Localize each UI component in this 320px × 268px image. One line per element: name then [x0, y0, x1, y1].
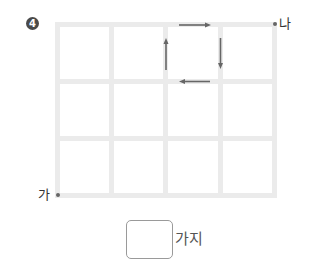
start-point-label: 가 [38, 187, 50, 203]
answer-input-box[interactable] [126, 220, 173, 259]
end-point-label: 나 [279, 16, 291, 32]
end-point-dot [273, 22, 277, 26]
answer-unit-label: 가지 [175, 230, 203, 248]
start-point-dot [56, 193, 60, 197]
